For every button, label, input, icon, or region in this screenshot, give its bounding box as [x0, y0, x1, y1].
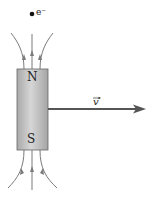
electron-label: e⁻	[36, 7, 46, 17]
magnet-diagram	[0, 0, 155, 205]
north-pole-label: N	[27, 70, 38, 84]
electron-dot	[30, 12, 35, 17]
south-pole-label: S	[27, 132, 35, 146]
velocity-label: v	[93, 96, 99, 107]
